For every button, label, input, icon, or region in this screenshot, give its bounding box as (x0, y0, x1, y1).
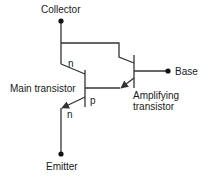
collector-label: Collector (41, 4, 81, 15)
amplifying-label-line1: Amplifying (133, 90, 179, 101)
emitter-label: Emitter (46, 161, 78, 172)
main-emitter-arrow (62, 97, 85, 108)
main-collector-n-label: n (68, 58, 74, 69)
main-transistor-label: Main transistor (10, 83, 76, 94)
circuit-svg: Collector Base Emitter Main transistor A… (0, 0, 209, 176)
amp-emitter-arrow (121, 78, 134, 88)
main-emitter-n-label: n (67, 109, 73, 120)
amplifying-label-line2: transistor (133, 101, 175, 112)
base-terminal-dot (165, 68, 170, 73)
main-base-p-label: p (90, 95, 96, 106)
base-label: Base (175, 66, 198, 77)
collector-terminal-dot (58, 18, 63, 23)
emitter-terminal-dot (58, 151, 63, 156)
darlington-diagram: Collector Base Emitter Main transistor A… (0, 0, 209, 176)
